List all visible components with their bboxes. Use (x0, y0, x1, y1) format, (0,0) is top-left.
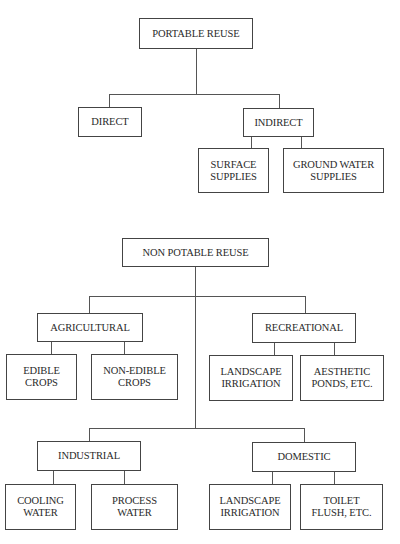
node-label: EDIBLE CROPS (23, 365, 60, 389)
node-non-edible-crops: NON-EDIBLE CROPS (91, 354, 178, 400)
node-label: INDUSTRIAL (58, 450, 120, 462)
connector (334, 472, 335, 484)
node-indirect: INDIRECT (243, 108, 314, 137)
connector (305, 296, 306, 313)
node-label: DOMESTIC (278, 451, 331, 463)
connector (124, 342, 125, 354)
node-label: AGRICULTURAL (50, 322, 130, 334)
connector (109, 94, 110, 107)
node-edible-crops: EDIBLE CROPS (6, 354, 77, 400)
node-direct: DIRECT (78, 107, 142, 137)
node-label: TOILET FLUSH, ETC. (312, 495, 372, 519)
node-cooling-water: COOLING WATER (5, 484, 76, 530)
node-label: COOLING WATER (17, 495, 64, 519)
connector (334, 343, 335, 355)
connector (53, 471, 54, 484)
connector (279, 94, 280, 108)
node-portable-reuse: PORTABLE REUSE (139, 18, 253, 49)
node-label: AESTHETIC PONDS, ETC. (311, 366, 372, 390)
connector (272, 472, 273, 484)
node-label: DIRECT (91, 116, 128, 128)
connector (51, 342, 52, 354)
connector (196, 49, 197, 94)
connector (274, 343, 275, 355)
connector (301, 137, 302, 148)
node-label: RECREATIONAL (265, 322, 343, 334)
node-process-water: PROCESS WATER (91, 484, 178, 530)
node-label: INDIRECT (254, 117, 302, 129)
node-label: GROUND WATER SUPPLIES (293, 159, 374, 183)
node-aesthetic-ponds: AESTHETIC PONDS, ETC. (300, 355, 384, 401)
node-label: SURFACE SUPPLIES (210, 159, 256, 183)
node-recreational: RECREATIONAL (252, 313, 356, 343)
node-label: NON POTABLE REUSE (143, 247, 249, 259)
connector (89, 428, 305, 429)
connector (89, 428, 90, 441)
node-label: PORTABLE REUSE (152, 28, 239, 40)
node-landscape-irrigation-domestic: LANDSCAPE IRRIGATION (209, 484, 291, 530)
node-surface-supplies: SURFACE SUPPLIES (198, 148, 269, 193)
node-domestic: DOMESTIC (252, 442, 356, 472)
node-agricultural: AGRICULTURAL (37, 313, 143, 342)
connector (195, 267, 196, 429)
connector (124, 471, 125, 484)
connector (89, 296, 306, 297)
node-label: PROCESS WATER (112, 495, 157, 519)
node-industrial: INDUSTRIAL (37, 441, 141, 471)
connector (109, 94, 280, 95)
connector (304, 428, 305, 442)
node-label: LANDSCAPE IRRIGATION (221, 366, 282, 390)
connector (251, 137, 252, 148)
node-landscape-irrigation-recreational: LANDSCAPE IRRIGATION (209, 355, 293, 401)
node-toilet-flush: TOILET FLUSH, ETC. (300, 484, 383, 530)
node-ground-water-supplies: GROUND WATER SUPPLIES (283, 148, 384, 193)
node-label: LANDSCAPE IRRIGATION (220, 495, 281, 519)
node-label: NON-EDIBLE CROPS (103, 365, 166, 389)
node-non-potable-reuse: NON POTABLE REUSE (122, 238, 269, 267)
connector (89, 296, 90, 313)
